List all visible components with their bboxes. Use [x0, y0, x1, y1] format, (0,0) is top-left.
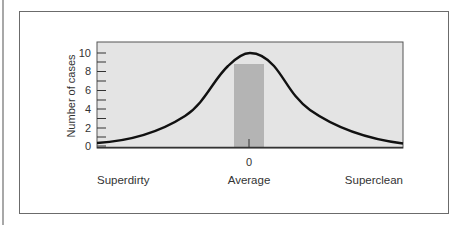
y-axis-title: Number of cases [65, 54, 77, 138]
chart: 0 2 4 6 8 10 Number of cases 0 Superdirt… [0, 0, 459, 225]
y-tick-label-6: 6 [85, 84, 91, 96]
label-superclean: Superclean [345, 174, 403, 186]
y-tick-label-8: 8 [85, 65, 91, 77]
label-average: Average [228, 174, 271, 186]
label-superdirty: Superdirty [97, 174, 150, 186]
y-tick-label-0: 0 [85, 140, 91, 152]
y-tick-label-4: 4 [85, 103, 91, 115]
average-bar [234, 64, 264, 148]
x-tick-label-zero: 0 [246, 156, 252, 168]
y-tick-label-10: 10 [79, 47, 91, 59]
y-tick-label-2: 2 [85, 122, 91, 134]
